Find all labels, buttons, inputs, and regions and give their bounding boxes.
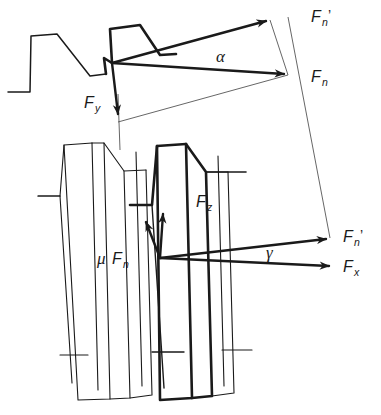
label-fz: F z	[196, 193, 213, 213]
vector-fx	[160, 258, 329, 266]
label-mu-fn-sub: n	[123, 258, 129, 270]
label-fz-base: F	[196, 193, 207, 210]
label-fy: F y	[84, 94, 101, 114]
force-diagram-figure: F n ’ F n F y α F z μ F n F n	[0, 0, 381, 415]
label-fn-upper-base: F	[311, 68, 322, 85]
lower-thread-solid	[38, 143, 252, 400]
label-mu-fn-mu: μ	[96, 249, 106, 268]
construction-line-fn-tip-to-fy-tip	[118, 75, 288, 122]
construction-line-right-drop	[288, 17, 330, 238]
label-fn-prime-upper: F n ’	[311, 7, 331, 28]
label-fx: F x	[343, 258, 360, 278]
label-fn-upper: F n	[311, 68, 328, 88]
upper-triangle-closing-edge	[270, 20, 288, 75]
label-mu-fn-base: F	[112, 250, 123, 267]
vector-fn-prime-lower	[160, 239, 326, 258]
label-fn-prime-lower-prime: ’	[360, 227, 363, 243]
vector-fy	[112, 63, 118, 114]
label-mu-fn: μ F n	[96, 249, 129, 270]
label-fn-prime-lower-base: F	[343, 228, 354, 245]
lower-force-vectors	[146, 214, 329, 266]
label-fx-sub: x	[353, 266, 360, 278]
label-fn-prime-lower: F n ’	[343, 227, 363, 248]
label-fy-base: F	[84, 94, 95, 111]
label-fn-upper-sub: n	[322, 76, 328, 88]
label-fx-base: F	[343, 258, 354, 275]
label-angle-alpha: α	[216, 47, 226, 66]
vector-fn-prime-upper	[112, 21, 266, 63]
label-fy-sub: y	[94, 102, 101, 114]
label-fn-prime-upper-base: F	[311, 8, 322, 25]
vector-fn-upper	[112, 63, 284, 74]
diagram-canvas: F n ’ F n F y α F z μ F n F n	[8, 7, 363, 400]
label-fz-sub: z	[206, 201, 213, 213]
vector-fz-component	[160, 214, 163, 258]
label-fn-prime-upper-prime: ’	[328, 7, 331, 23]
upper-thread-profile	[8, 25, 176, 92]
